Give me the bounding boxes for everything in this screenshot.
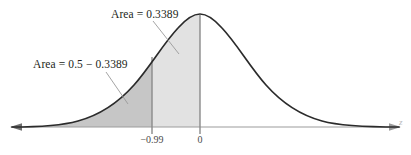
tick-label-zero: 0 — [185, 134, 215, 145]
leader-line-lower — [106, 72, 128, 104]
normal-curve-plot — [0, 0, 411, 155]
area-label-upper: Area = 0.3389 — [111, 8, 179, 20]
tick-label-neg-099: −0.99 — [132, 134, 172, 145]
normal-distribution-figure: Area = 0.3389 Area = 0.5 − 0.3389 −0.99 … — [0, 0, 411, 155]
normal-density-curve — [12, 14, 399, 127]
area-label-lower: Area = 0.5 − 0.3389 — [33, 58, 128, 70]
axis-label-z: z — [399, 117, 403, 127]
shaded-region-light — [152, 10, 200, 127]
